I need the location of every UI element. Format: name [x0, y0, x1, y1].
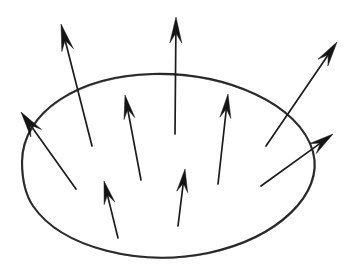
figure-canvas [0, 0, 356, 266]
vector-top-center-outward-shaft [175, 33, 176, 134]
vector-field-figure [0, 0, 356, 266]
